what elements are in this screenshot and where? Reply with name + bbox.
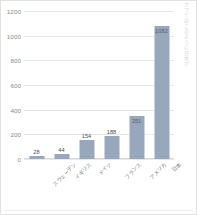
bar[interactable] — [79, 140, 94, 159]
bar[interactable] — [154, 26, 169, 159]
plot-area: 020040060080010001200 28441541883511082 — [24, 11, 174, 159]
bar-slot: 28 — [24, 11, 49, 159]
x-axis-category-labels: スウェーデンイギリスドイツフランスアメリカ日本 — [24, 161, 174, 207]
y-axis-tick-label: 600 — [10, 82, 21, 89]
x-axis-category-label: 日本 — [170, 161, 183, 174]
bar-value-label: 188 — [107, 129, 117, 135]
bar-slot: 188 — [99, 11, 124, 159]
y-axis-tick-label: 200 — [10, 131, 21, 138]
bar-slot: 351 — [124, 11, 149, 159]
bar-value-label: 154 — [82, 133, 92, 139]
cutoff-body-text: かつてはこのように日本が — [183, 2, 196, 162]
y-axis-tick-label: 1200 — [7, 8, 21, 15]
x-axis-category-label: ドイツ — [96, 161, 112, 177]
y-axis-tick-label: 1000 — [7, 32, 21, 39]
x-axis-category-label: フランス — [123, 161, 143, 181]
bar-chart: 020040060080010001200 28441541883511082 … — [0, 0, 182, 215]
bar-value-label: 44 — [58, 147, 64, 153]
bar-slot: 154 — [74, 11, 99, 159]
y-axis-tick-label: 800 — [10, 57, 21, 64]
bar-series: 28441541883511082 — [24, 11, 174, 159]
cutoff-body-text-line: かつてはこのように日本が — [183, 2, 189, 67]
gridline — [24, 159, 174, 160]
bar-value-label: 28 — [33, 149, 39, 155]
bottom-divider — [4, 210, 193, 211]
y-axis-tick-label: 400 — [10, 106, 21, 113]
bar[interactable] — [104, 136, 119, 159]
x-axis-category-label: アメリカ — [148, 161, 168, 181]
bar[interactable] — [29, 156, 44, 159]
bar-value-label: 1082 — [155, 28, 168, 34]
bar-value-label: 351 — [132, 118, 142, 124]
bar-slot: 1082 — [149, 11, 174, 159]
bar-slot: 44 — [49, 11, 74, 159]
bar[interactable] — [54, 154, 69, 159]
chart-screenshot: 020040060080010001200 28441541883511082 … — [0, 0, 197, 215]
y-axis-tick-label: 0 — [17, 156, 21, 163]
